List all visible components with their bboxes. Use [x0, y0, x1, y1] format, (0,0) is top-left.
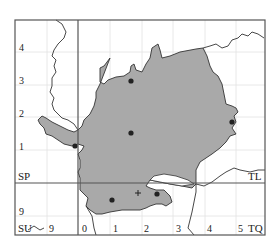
shaded-region [38, 44, 238, 214]
bottom-axis-label: 5 [238, 223, 243, 234]
left-axis-label: 2 [19, 108, 24, 119]
distribution-map: 4 3 2 1 9 SP TL SU TQ 9 0 1 2 3 4 5 [0, 0, 278, 247]
bottom-axis-label: 1 [113, 223, 118, 234]
bottom-axis-label: 9 [49, 223, 54, 234]
bottom-axis-label: 3 [176, 223, 181, 234]
bottom-axis-label: 4 [207, 223, 212, 234]
left-axis-label: 4 [19, 42, 24, 53]
square-label-su: SU [18, 222, 32, 234]
left-axis-label: 3 [19, 75, 24, 86]
record-dot [154, 191, 159, 196]
bottom-axis-label: 2 [144, 223, 149, 234]
record-dot [128, 78, 133, 83]
bottom-axis-label: 0 [82, 223, 87, 234]
left-axis-label: 1 [19, 141, 24, 152]
record-dot [109, 197, 114, 202]
square-label-tq: TQ [248, 222, 263, 234]
record-dot [128, 130, 133, 135]
left-axis-label: 9 [19, 206, 24, 217]
square-label-sp: SP [18, 170, 30, 182]
record-dot [72, 143, 77, 148]
record-dot [229, 119, 234, 124]
square-label-tl: TL [248, 170, 262, 182]
